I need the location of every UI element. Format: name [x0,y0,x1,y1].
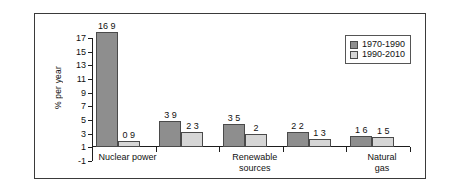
bar[interactable]: 2 [245,134,267,148]
x-axis-category-label: Nuclear power [96,152,160,163]
y-tick-label-3: 3 [81,129,86,138]
y-tick-label-17: 17 [76,34,86,43]
y-tick-label-13: 13 [76,61,86,70]
chart-frame: % per year -11357911131517 16 90 9Nuclea… [34,13,426,179]
legend: 1970-1990 1990-2010 [345,35,411,64]
x-tick [283,147,284,152]
bar-value-label: 16 9 [98,22,116,31]
x-tick-end [410,147,411,152]
x-tick [219,147,220,152]
y-axis-title: % per year [53,66,63,109]
y-tick-7 [88,106,92,107]
bar-value-label: 3 9 [164,111,177,120]
bar-value-label: 1 6 [355,126,368,135]
bar-value-label: 1 5 [377,127,390,136]
legend-swatch-icon-1990-2010 [350,51,358,59]
bar-value-label: 1 3 [313,129,326,138]
x-axis-category-label: Renewable sources [223,152,287,173]
y-tick-label-7: 7 [81,102,86,111]
y-tick-label-15: 15 [76,47,86,56]
y-tick-13 [88,65,92,66]
y-tick--1 [88,161,92,162]
legend-label-1990-2010: 1990-2010 [362,50,405,59]
y-tick-label--1: -1 [78,157,86,166]
legend-label-1970-1990: 1970-1990 [362,40,405,49]
y-tick-label-9: 9 [81,88,86,97]
x-tick [156,147,157,152]
bar-value-label: 3 5 [228,114,241,123]
y-tick-9 [88,93,92,94]
y-tick-label-5: 5 [81,116,86,125]
x-tick [346,147,347,152]
y-tick-label-11: 11 [77,75,86,84]
legend-item-1990-2010: 1990-2010 [350,50,405,59]
y-tick-17 [88,38,92,39]
bar-value-label: 2 [253,124,258,133]
bar-value-label: 2 3 [186,122,199,131]
y-tick-label-1: 1 [81,143,86,152]
y-tick-15 [88,52,92,53]
bar[interactable]: 0 9 [118,141,140,147]
bar[interactable]: 1 5 [372,137,394,147]
y-tick-11 [88,79,92,80]
bar[interactable]: 3 5 [223,124,245,148]
x-axis-category-label: Natural gas [350,152,414,173]
bar[interactable]: 3 9 [159,121,181,148]
bar[interactable]: 2 2 [287,132,309,147]
y-tick-5 [88,120,92,121]
y-tick-3 [88,134,92,135]
bar[interactable]: 16 9 [96,32,118,147]
legend-swatch-icon-1970-1990 [350,41,358,49]
bar[interactable]: 2 3 [181,132,203,148]
y-axis-line [92,38,93,161]
bar-value-label: 2 2 [291,122,304,131]
y-tick-1 [88,147,92,148]
bar[interactable]: 1 3 [309,139,331,148]
bar[interactable]: 1 6 [350,136,372,147]
legend-item-1970-1990: 1970-1990 [350,40,405,49]
bar-value-label: 0 9 [123,131,136,140]
